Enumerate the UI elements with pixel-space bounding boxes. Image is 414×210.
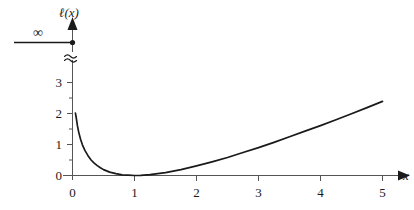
y-tick-label-0: 0: [38, 169, 62, 182]
axis-break-icon: [65, 55, 77, 62]
x-axis-title: x: [403, 169, 409, 182]
plot-area: [0, 0, 414, 210]
x-tick-label-2: 2: [185, 186, 209, 199]
infinity-label: ∞: [33, 26, 43, 40]
chart-figure: ℓ(x) x ∞ 0 1 2 3 0 1 2 3 4 5: [0, 0, 414, 210]
x-tick-label-1: 1: [123, 186, 147, 199]
x-tick-label-3: 3: [247, 186, 271, 199]
x-tick-label-5: 5: [371, 186, 395, 199]
infinity-point-dot: [70, 40, 75, 45]
curve-l-of-x: [75, 101, 382, 175]
x-tick-label-4: 4: [309, 186, 333, 199]
y-tick-label-2: 2: [38, 107, 62, 120]
x-tick-label-0: 0: [61, 186, 85, 199]
y-axis-title: ℓ(x): [59, 6, 79, 19]
y-tick-label-3: 3: [38, 76, 62, 89]
y-tick-label-1: 1: [38, 138, 62, 151]
